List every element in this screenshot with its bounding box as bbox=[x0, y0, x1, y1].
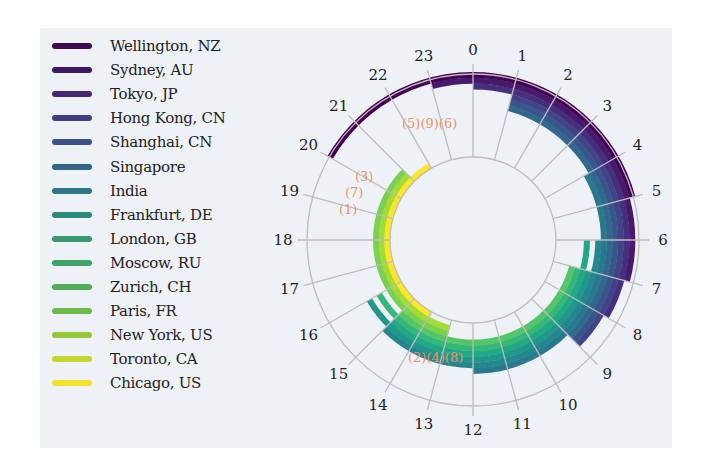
hour-tick-label: 6 bbox=[658, 231, 668, 249]
hour-tick-label: 19 bbox=[280, 182, 299, 200]
hour-tick-label: 11 bbox=[513, 415, 532, 433]
hour-tick-label: 17 bbox=[280, 280, 299, 298]
hour-tick-label: 13 bbox=[414, 415, 433, 433]
hour-tick-label: 4 bbox=[633, 136, 643, 154]
hour-tick-label: 12 bbox=[463, 421, 482, 439]
hour-tick-label: 23 bbox=[414, 47, 433, 65]
hour-tick-label: 10 bbox=[558, 396, 577, 414]
hour-tick-label: 20 bbox=[299, 136, 318, 154]
annotation-left-b: (7) bbox=[345, 185, 363, 200]
grid-circle bbox=[390, 157, 556, 323]
hour-tick-label: 14 bbox=[368, 396, 387, 414]
annotation-left-c: (1) bbox=[339, 202, 357, 217]
hour-tick-label: 18 bbox=[273, 231, 292, 249]
polar-chart: 01234567891011121314151617181920212223 (… bbox=[0, 0, 706, 467]
hour-tick-label: 22 bbox=[368, 66, 387, 84]
hour-tick-label: 5 bbox=[652, 182, 662, 200]
hour-tick-label: 16 bbox=[299, 326, 318, 344]
hour-tick-label: 15 bbox=[329, 365, 348, 383]
hour-tick-label: 0 bbox=[468, 41, 478, 59]
hour-tick-label: 1 bbox=[517, 47, 527, 65]
annotation-top: (5)(9)(6) bbox=[402, 116, 457, 131]
polar-grid bbox=[297, 64, 649, 416]
hour-tick-label: 7 bbox=[652, 280, 662, 298]
annotation-bottom: (2)(4)(8) bbox=[408, 350, 463, 365]
ring-bands bbox=[328, 72, 636, 374]
annotation-left-a: (3) bbox=[355, 169, 373, 184]
hour-tick-label: 21 bbox=[329, 97, 348, 115]
hour-tick-label: 9 bbox=[603, 365, 613, 383]
hour-tick-label: 8 bbox=[633, 326, 643, 344]
hour-tick-label: 2 bbox=[563, 66, 573, 84]
hour-tick-label: 3 bbox=[603, 97, 613, 115]
